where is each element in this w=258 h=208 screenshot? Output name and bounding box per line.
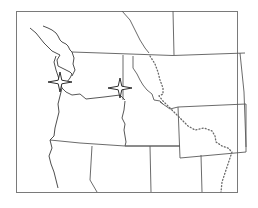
- mt-nd-border: [240, 53, 246, 147]
- map-canvas: [0, 0, 258, 208]
- map-container: [0, 0, 258, 208]
- map-frame: [17, 12, 238, 193]
